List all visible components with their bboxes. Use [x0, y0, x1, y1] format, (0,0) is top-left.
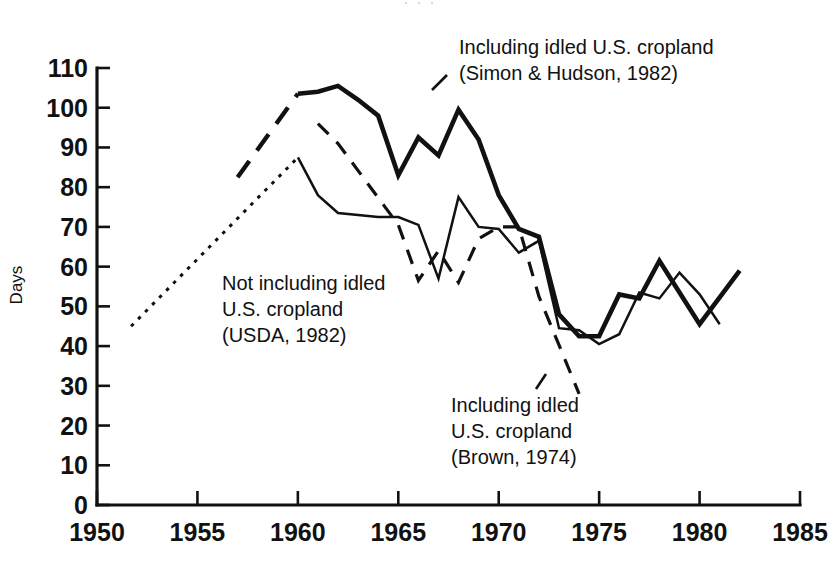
x-tick-label: 1980 — [672, 518, 728, 546]
x-tick-label: 1975 — [571, 518, 627, 546]
y-tick-label: 0 — [74, 491, 88, 519]
series-line-1 — [298, 157, 720, 344]
y-tick-label: 110 — [48, 54, 88, 82]
annot-usda-line1: Not including idled — [222, 272, 385, 294]
x-tick-label: 1950 — [69, 518, 125, 546]
series-lead-in-0 — [238, 94, 298, 178]
annot-usda-line2: U.S. cropland — [222, 298, 343, 320]
y-tick-label: 90 — [60, 133, 88, 161]
y-tick-label: 50 — [60, 292, 88, 320]
y-tick-label: 100 — [46, 94, 88, 122]
y-tick-label: 10 — [60, 451, 88, 479]
y-tick-label: 30 — [60, 372, 88, 400]
y-tick-labels: 0102030405060708090100110 — [46, 54, 88, 519]
y-tick-label: 80 — [60, 173, 88, 201]
y-tick-label: 40 — [60, 332, 88, 360]
y-tick-label: 60 — [60, 253, 88, 281]
annot-usda-line3: (USDA, 1982) — [222, 324, 347, 346]
annot-simon-line1: Including idled U.S. cropland — [459, 36, 714, 58]
series-line-2 — [318, 124, 579, 394]
x-tick-marks — [97, 491, 800, 505]
y-tick-label: 20 — [60, 412, 88, 440]
x-tick-label: 1985 — [772, 518, 828, 546]
x-tick-label: 1965 — [370, 518, 426, 546]
annot-brown-line1: Including idled — [451, 394, 579, 416]
chart-figure: · · · 0102030405060708090100110 19501955… — [0, 0, 839, 562]
x-axis-group: 19501955196019651970197519801985 — [69, 491, 828, 546]
leader-line-simon — [432, 75, 447, 90]
data-series-layer — [131, 86, 740, 394]
annotation-simon-hudson: Including idled U.S. cropland (Simon & H… — [459, 36, 714, 84]
y-tick-marks — [97, 68, 110, 505]
x-tick-label: 1970 — [471, 518, 527, 546]
x-tick-label: 1960 — [270, 518, 326, 546]
y-axis-title: Days — [7, 266, 26, 305]
x-tick-label: 1955 — [170, 518, 226, 546]
annotation-usda: Not including idled U.S. cropland (USDA,… — [222, 272, 385, 346]
annot-brown-line3: (Brown, 1974) — [451, 446, 577, 468]
x-tick-labels: 19501955196019651970197519801985 — [69, 518, 828, 546]
line-chart-svg: 0102030405060708090100110 19501955196019… — [0, 0, 839, 562]
annotation-brown: Including idled U.S. cropland (Brown, 19… — [451, 394, 579, 468]
series-line-0 — [298, 86, 740, 336]
annot-brown-line2: U.S. cropland — [451, 420, 572, 442]
y-tick-label: 70 — [60, 213, 88, 241]
leader-line-brown — [536, 374, 546, 389]
y-axis-group: 0102030405060708090100110 — [46, 54, 110, 519]
annot-simon-line2: (Simon & Hudson, 1982) — [459, 62, 678, 84]
